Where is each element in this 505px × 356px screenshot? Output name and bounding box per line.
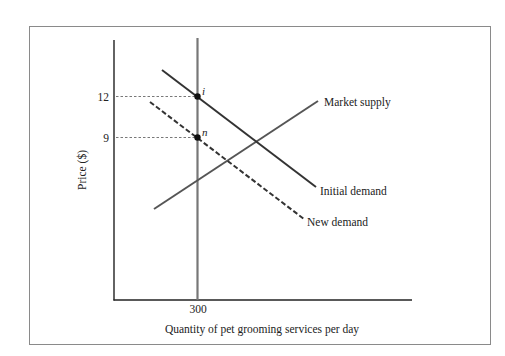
point-n xyxy=(194,134,200,140)
supply-curve xyxy=(154,101,318,209)
new-demand-label: New demand xyxy=(307,216,368,228)
supply-label: Market supply xyxy=(324,96,391,109)
point-i-label: i xyxy=(202,85,205,97)
chart-canvas: i n 12 9 300 Quantity of pet grooming se… xyxy=(0,0,505,356)
ytick-9: 9 xyxy=(103,132,109,144)
point-n-label: n xyxy=(202,126,208,138)
initial-demand-curve xyxy=(162,70,316,187)
y-axis-title: Price ($) xyxy=(76,150,89,190)
point-i xyxy=(194,93,200,99)
xtick-300: 300 xyxy=(189,303,207,315)
x-axis-title: Quantity of pet grooming services per da… xyxy=(165,323,359,336)
initial-demand-label: Initial demand xyxy=(320,185,387,197)
ytick-12: 12 xyxy=(98,91,110,103)
